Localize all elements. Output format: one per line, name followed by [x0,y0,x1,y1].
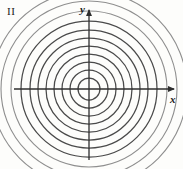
concentric-circles-diagram: II y x [0,0,183,169]
x-axis-label: x [170,94,176,105]
quadrant-label: II [7,6,15,17]
y-axis-label: y [80,4,85,15]
diagram-canvas [0,0,183,169]
outer-arc-fragments [0,0,183,169]
